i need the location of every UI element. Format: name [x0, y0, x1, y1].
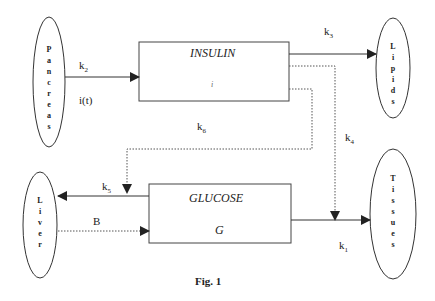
b-label: B	[93, 216, 100, 227]
vertical-letter: s	[383, 195, 403, 206]
vertical-letter: s	[383, 239, 403, 250]
vertical-letter: e	[39, 99, 59, 110]
vertical-letter: e	[383, 228, 403, 239]
vertical-letter: c	[39, 77, 59, 88]
k2-label: k2	[79, 60, 88, 76]
vertical-letter: r	[39, 88, 59, 99]
vertical-letter: L	[30, 195, 50, 206]
k1-label: k1	[339, 240, 348, 256]
vertical-letter: T	[383, 173, 403, 184]
k4-label: k4	[345, 132, 354, 148]
insulin-symbol: i	[211, 79, 213, 90]
k5-label: k5	[102, 181, 111, 197]
vertical-letter: i	[30, 206, 50, 217]
vertical-letter: P	[39, 44, 59, 55]
vertical-letter: a	[39, 110, 59, 121]
tissues-label: Tissues	[383, 173, 403, 250]
vertical-letter: e	[30, 228, 50, 239]
k3-label: k3	[324, 26, 333, 42]
vertical-letter: L	[383, 41, 403, 52]
vertical-letter: d	[383, 85, 403, 96]
vertical-letter: i	[383, 184, 403, 195]
arrow-k6-dotted	[127, 89, 312, 193]
lipids-label: Lipids	[383, 41, 403, 107]
glucose-title: GLUCOSE	[189, 193, 243, 204]
vertical-letter: n	[39, 66, 59, 77]
glucose-symbol: G	[215, 225, 224, 236]
vertical-letter: s	[39, 121, 59, 132]
vertical-letter: p	[383, 63, 403, 74]
vertical-letter: r	[30, 239, 50, 250]
k6-label: k6	[197, 121, 206, 137]
vertical-letter: i	[383, 74, 403, 85]
vertical-letter: a	[39, 55, 59, 66]
vertical-letter: s	[383, 96, 403, 107]
vertical-letter: v	[30, 217, 50, 228]
vertical-letter: i	[383, 52, 403, 63]
input-it-label: i(t)	[79, 95, 92, 106]
vertical-letter: u	[383, 217, 403, 228]
figure-caption: Fig. 1	[195, 275, 221, 287]
pancreas-label: Pancreas	[39, 44, 59, 132]
liver-label: Liver	[30, 195, 50, 250]
vertical-letter: s	[383, 206, 403, 217]
insulin-title: INSULIN	[190, 48, 235, 59]
